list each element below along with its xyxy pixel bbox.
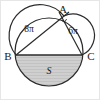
label-point-c: C <box>87 50 94 62</box>
label-point-a: A <box>59 3 67 15</box>
label-left-semicircle-area: 8π <box>24 24 34 34</box>
label-right-semicircle-area: 6π <box>68 26 78 36</box>
geometry-figure: A B C 8π 6π S <box>0 0 100 100</box>
left-semicircle-arc <box>9 5 64 55</box>
label-point-b: B <box>4 50 11 62</box>
diagram-canvas: A B C 8π 6π S <box>0 0 100 100</box>
label-shaded-region: S <box>47 65 52 76</box>
